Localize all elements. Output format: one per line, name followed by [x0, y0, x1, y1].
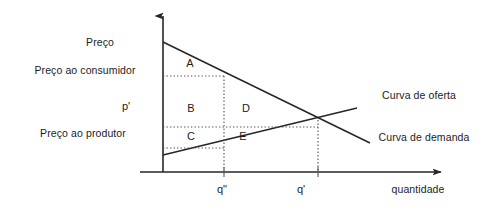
producer-price-label: Preço ao produtor	[40, 128, 126, 139]
demand-curve	[163, 42, 370, 143]
q-restricted-label: q"	[217, 184, 227, 195]
region-label-c: C	[187, 131, 195, 142]
region-label-b: B	[187, 103, 194, 114]
consumer-price-label: Preço ao consumidor	[34, 65, 135, 76]
y-axis-label: Preço	[86, 37, 114, 48]
demand-curve-label: Curva de demanda	[379, 132, 470, 143]
region-label-d: D	[242, 103, 250, 114]
region-label-a: A	[186, 58, 193, 69]
x-axis-label: quantidade	[392, 184, 445, 195]
diagram-canvas: Preço quantidade Preço ao consumidor Pre…	[0, 0, 490, 216]
equilibrium-price-label: p'	[122, 101, 130, 112]
q-equilibrium-label: q'	[297, 184, 305, 195]
region-label-e: E	[239, 131, 246, 142]
supply-curve-label: Curva de oferta	[382, 90, 456, 101]
